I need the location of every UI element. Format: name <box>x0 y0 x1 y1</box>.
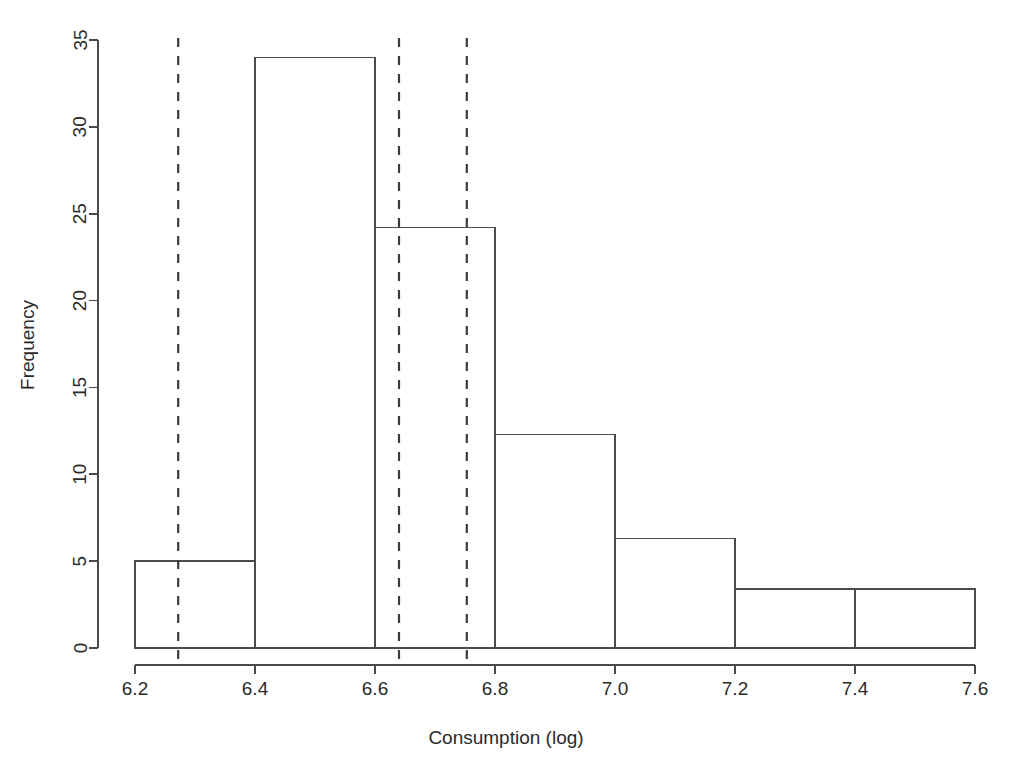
x-tick-label: 6.6 <box>362 678 388 699</box>
plot-canvas: 05101520253035 6.26.46.66.87.07.27.47.6 … <box>0 0 1012 770</box>
y-tick-label: 30 <box>70 116 91 137</box>
x-tick-label: 6.8 <box>482 678 508 699</box>
x-tick-label: 7.0 <box>602 678 628 699</box>
x-tick-label: 6.4 <box>242 678 269 699</box>
x-tick-label: 7.4 <box>842 678 869 699</box>
x-tick-label: 7.2 <box>722 678 748 699</box>
y-tick-label: 35 <box>70 29 91 50</box>
y-axis-title: Frequency <box>17 300 38 390</box>
y-tick-label: 25 <box>70 203 91 224</box>
plot-background <box>0 0 1012 770</box>
y-tick-label: 10 <box>70 464 91 485</box>
x-tick-label: 7.6 <box>962 678 988 699</box>
y-tick-label: 5 <box>70 556 91 567</box>
y-tick-label: 20 <box>70 290 91 311</box>
histogram-plot-figure: 05101520253035 6.26.46.66.87.07.27.47.6 … <box>0 0 1012 770</box>
y-tick-label: 0 <box>70 643 91 654</box>
x-tick-label: 6.2 <box>122 678 148 699</box>
y-tick-label: 15 <box>70 377 91 398</box>
x-axis-title: Consumption (log) <box>428 727 583 748</box>
